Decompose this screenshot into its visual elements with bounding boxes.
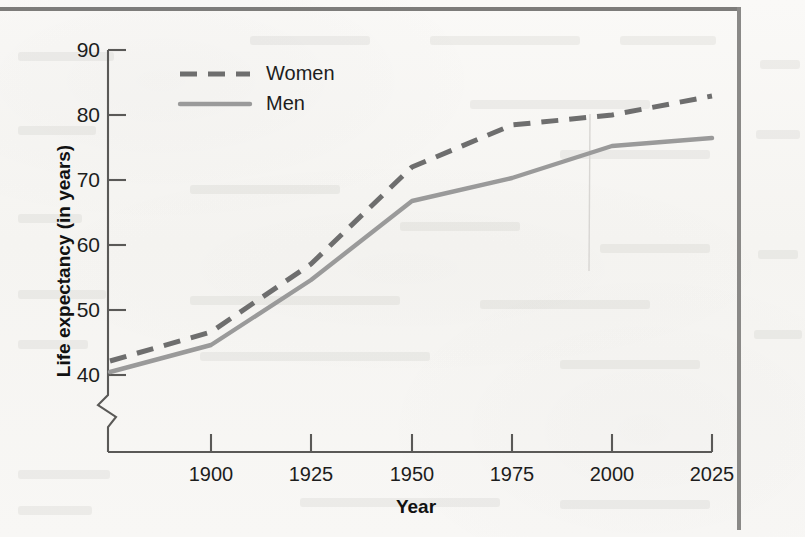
y-axis-break-symbol bbox=[98, 377, 116, 452]
y-tick-label-90: 90 bbox=[77, 38, 100, 61]
x-axis-title: Year bbox=[396, 496, 437, 517]
ghost-text bbox=[760, 60, 800, 69]
x-tick-label-1975: 1975 bbox=[490, 463, 535, 485]
y-tick-label-50: 50 bbox=[77, 298, 100, 321]
y-axis-title: Life expectancy (in years) bbox=[53, 145, 74, 377]
series-line-women bbox=[110, 96, 712, 361]
legend-label-women: Women bbox=[266, 62, 335, 84]
y-tick-label-70: 70 bbox=[77, 168, 100, 191]
x-tick-label-2025: 2025 bbox=[690, 463, 735, 485]
ghost-text bbox=[756, 130, 800, 139]
x-tick-label-1925: 1925 bbox=[289, 463, 334, 485]
scan-artifact-line bbox=[589, 114, 590, 271]
x-tick-label-2000: 2000 bbox=[590, 463, 635, 485]
legend: Women Men bbox=[180, 62, 335, 114]
ghost-text bbox=[758, 250, 798, 259]
x-tick-label-1900: 1900 bbox=[189, 463, 234, 485]
y-tick-label-60: 60 bbox=[77, 233, 100, 256]
y-tick-label-80: 80 bbox=[77, 103, 100, 126]
legend-label-men: Men bbox=[266, 92, 305, 114]
figure-border-right bbox=[737, 7, 741, 530]
ghost-text bbox=[754, 330, 802, 339]
figure-page: 90 80 70 60 50 40 1900 1925 1950 1975 20… bbox=[0, 0, 805, 537]
x-tick-label-1950: 1950 bbox=[390, 463, 435, 485]
line-chart: 90 80 70 60 50 40 1900 1925 1950 1975 20… bbox=[0, 11, 737, 531]
y-tick-label-40: 40 bbox=[77, 363, 100, 386]
